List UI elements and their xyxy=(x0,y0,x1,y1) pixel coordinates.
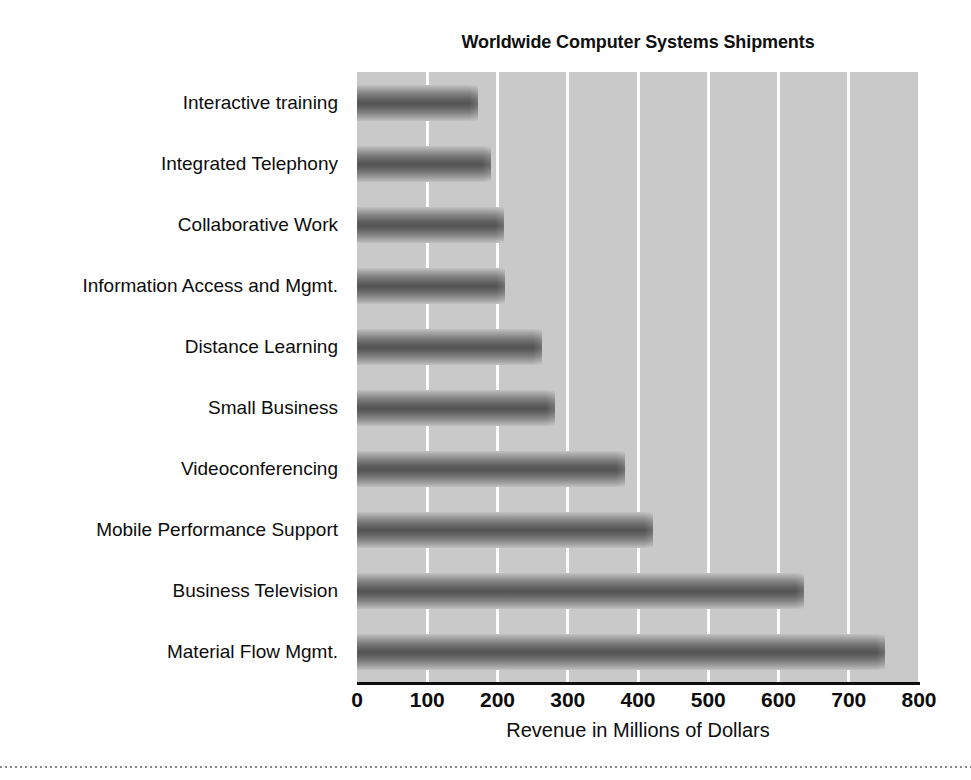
bar xyxy=(357,512,653,548)
bar xyxy=(357,268,505,304)
x-tick-label: 700 xyxy=(831,688,866,712)
x-tick-label: 500 xyxy=(691,688,726,712)
bar xyxy=(357,573,804,609)
y-axis-category-labels: Interactive trainingIntegrated Telephony… xyxy=(0,72,348,682)
bar xyxy=(357,451,625,487)
x-tick-label: 100 xyxy=(410,688,445,712)
y-axis-label: Integrated Telephony xyxy=(0,154,348,174)
x-tick-label: 200 xyxy=(480,688,515,712)
y-axis-label: Small Business xyxy=(0,398,348,418)
y-axis-label: Information Access and Mgmt. xyxy=(0,276,348,296)
y-axis-label: Interactive training xyxy=(0,93,348,113)
page-dotted-rule xyxy=(0,766,971,768)
y-axis-label: Videoconferencing xyxy=(0,459,348,479)
gridline-800 xyxy=(918,72,920,682)
x-axis-title: Revenue in Millions of Dollars xyxy=(357,719,919,742)
bar xyxy=(357,146,491,182)
x-axis-line xyxy=(357,682,920,685)
x-tick-label: 800 xyxy=(901,688,936,712)
x-tick-label: 600 xyxy=(761,688,796,712)
x-axis-tick-labels: 0100200300400500600700800 xyxy=(0,688,971,718)
x-tick-label: 0 xyxy=(351,688,363,712)
plot-area xyxy=(357,72,919,682)
x-tick-label: 300 xyxy=(550,688,585,712)
x-tick-label: 400 xyxy=(620,688,655,712)
y-axis-label: Material Flow Mgmt. xyxy=(0,642,348,662)
gridline-700 xyxy=(847,72,850,682)
y-axis-label: Mobile Performance Support xyxy=(0,520,348,540)
chart-title: Worldwide Computer Systems Shipments xyxy=(357,32,919,53)
bar xyxy=(357,390,555,426)
y-axis-label: Collaborative Work xyxy=(0,215,348,235)
bar xyxy=(357,207,504,243)
bar xyxy=(357,329,542,365)
y-axis-label: Business Television xyxy=(0,581,348,601)
bar-chart-figure: Worldwide Computer Systems Shipments Int… xyxy=(0,0,971,780)
y-axis-label: Distance Learning xyxy=(0,337,348,357)
bar xyxy=(357,85,478,121)
bar xyxy=(357,634,885,670)
